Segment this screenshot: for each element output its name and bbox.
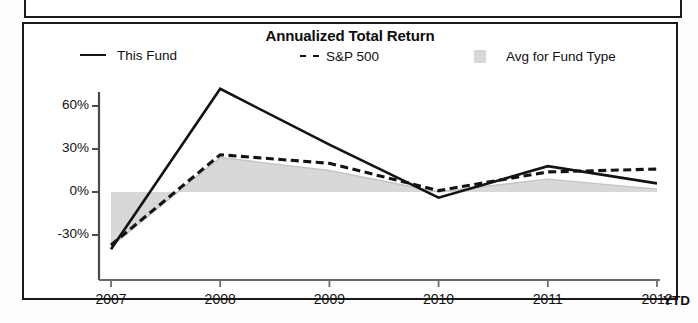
plot-area <box>24 24 680 302</box>
x-axis-label-2011: 2011 <box>516 291 580 307</box>
y-axis-label-neg30pct: -30% <box>31 226 89 241</box>
y-axis-label-60pct: 60% <box>31 97 89 112</box>
series-line-this-fund <box>111 89 657 250</box>
panel-above-chart <box>24 0 682 18</box>
x-axis-label-2010: 2010 <box>407 291 471 307</box>
x-axis-label-2007: 2007 <box>79 291 143 307</box>
series-line-s-p-500 <box>111 155 657 245</box>
x-axis-label-2008: 2008 <box>188 291 252 307</box>
plot-svg <box>24 24 680 302</box>
x-axis-ytd-label: YTD <box>663 293 690 308</box>
x-axis-label-2009: 2009 <box>297 291 361 307</box>
annualized-total-return-chart-panel: Annualized Total Return This Fund S&P 50… <box>22 22 678 300</box>
y-axis-label-30pct: 30% <box>31 140 89 155</box>
y-axis-label-0pct: 0% <box>31 183 89 198</box>
